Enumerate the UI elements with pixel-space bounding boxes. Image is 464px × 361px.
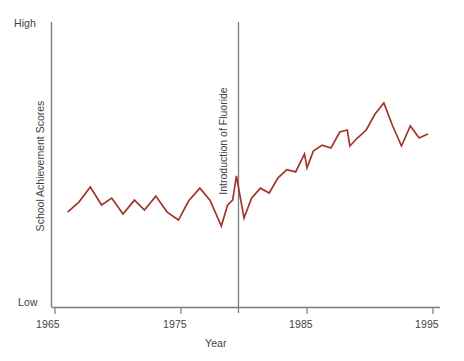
x-tick-label-1985: 1985 xyxy=(289,318,313,330)
achievement-scores-line xyxy=(68,103,428,226)
y-axis-title: School Achievement Scores xyxy=(34,86,46,246)
x-tick-label-1975: 1975 xyxy=(163,318,187,330)
x-axis-ticks xyxy=(55,308,433,315)
x-axis-title: Year xyxy=(205,337,227,349)
line-chart-plot xyxy=(0,0,464,361)
y-axis-low-label: Low xyxy=(18,296,38,308)
y-axis-high-label: High xyxy=(14,17,36,29)
chart-container: High Low 1965 1975 1985 1995 Year School… xyxy=(0,0,464,361)
x-tick-label-1995: 1995 xyxy=(415,318,439,330)
x-tick-label-1965: 1965 xyxy=(36,318,60,330)
introduction-of-fluoride-label: Introduction of Fluoride xyxy=(217,66,229,216)
